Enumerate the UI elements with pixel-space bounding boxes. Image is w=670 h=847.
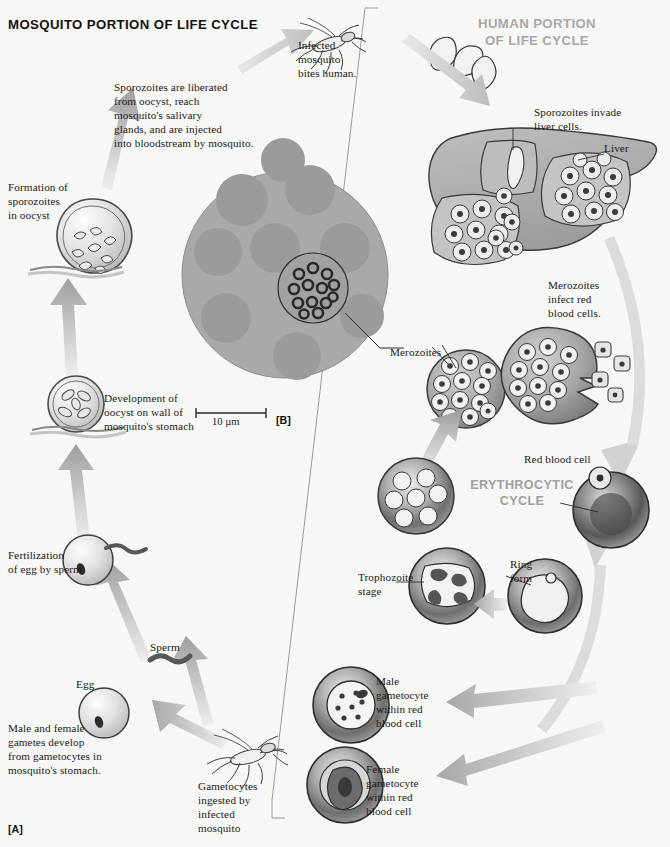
panel-label-b: [B]	[276, 414, 291, 426]
label-gametocytes-ingested: Gametocytes ingested by infected mosquit…	[198, 779, 258, 835]
label-liver: Liver	[604, 141, 629, 155]
label-sporozoites-invade-liver: Sporozoites invade liver cells.	[534, 105, 621, 133]
label-ring-form: Ring form	[510, 557, 532, 585]
label-egg: Egg	[76, 677, 94, 691]
label-infected-mosquito-bites: Infected mosquito bites human.	[298, 38, 356, 80]
malaria-life-cycle-figure: blood cell filled with merozoites of Pla…	[0, 0, 670, 847]
label-male-female-gametes: Male and female gametes develop from gam…	[8, 721, 102, 777]
label-female-gametocyte: Female gametocyte within red blood cell	[366, 762, 419, 818]
label-trophozoite-stage: Trophozoite stage	[358, 570, 413, 598]
label-red-blood-cell: Red blood cell	[524, 452, 591, 466]
label-sporozoites-liberated: Sporozoites are liberated from oocyst, r…	[114, 80, 254, 151]
header-mosquito-portion: MOSQUITO PORTION OF LIFE CYCLE	[8, 17, 258, 32]
label-sperm: Sperm	[150, 640, 180, 654]
header-erythrocytic-cycle: ERYTHROCYTIC CYCLE	[470, 477, 574, 510]
scale-bar-label: 10 µm	[212, 416, 240, 427]
label-merozoites: Merozoites	[390, 345, 441, 359]
label-fertilization: Fertilization of egg by sperm	[8, 548, 82, 576]
label-male-gametocyte: Male gametocyte within red blood cell	[376, 674, 429, 730]
header-human-portion: HUMAN PORTION OF LIFE CYCLE	[478, 16, 596, 50]
label-development-oocyst: Development of oocyst on wall of mosquit…	[104, 391, 194, 433]
label-merozoites-infect-rbc: Merozoites infect red blood cells.	[548, 278, 601, 320]
early-schizont-rbc	[378, 458, 454, 534]
panel-label-a: [A]	[8, 823, 23, 835]
label-formation-sporozoites: Formation of sporozoites in oocyst	[8, 180, 68, 222]
